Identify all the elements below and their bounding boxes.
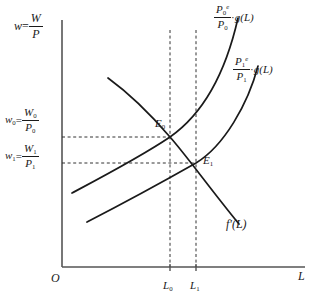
g0-numerator: P0e bbox=[214, 4, 231, 18]
g0-fraction: P0e P0 bbox=[214, 4, 231, 31]
w0-variable: w0 bbox=[5, 114, 16, 127]
w0-numerator: W0 bbox=[22, 107, 39, 121]
curve-label-supply-g0: P0e P0 ·g(L) bbox=[214, 4, 254, 31]
w1-numerator: W1 bbox=[22, 143, 39, 157]
g1-fraction: P1e P1 bbox=[233, 56, 250, 83]
g1-denominator: P1 bbox=[233, 70, 250, 83]
y-axis-label-equals: = bbox=[22, 20, 29, 32]
equilibrium-label-E1: E1 bbox=[203, 155, 213, 168]
w1-fraction: W1 P1 bbox=[22, 143, 39, 170]
curve-label-supply-g1: P1e P1 ·g(L) bbox=[233, 56, 273, 83]
g1-numerator: P1e bbox=[233, 56, 250, 70]
y-axis-label-denominator: P bbox=[29, 27, 43, 41]
equilibrium-label-E0: E0 bbox=[155, 118, 165, 131]
y-tick-label-w1: w1= W1 P1 bbox=[5, 143, 39, 170]
x-tick-label-L1: L1 bbox=[190, 280, 200, 293]
x-axis-label: L bbox=[298, 270, 305, 282]
curve-labor-supply-g1 bbox=[87, 66, 258, 222]
y-axis-label-numerator: W bbox=[29, 12, 43, 27]
origin-label: O bbox=[51, 272, 60, 284]
g0-denominator: P0 bbox=[214, 18, 231, 31]
curve-label-demand-f-prime: f'(L) bbox=[226, 218, 247, 230]
x-tick-label-L0: L0 bbox=[163, 280, 173, 293]
y-axis-label-w: w bbox=[14, 20, 22, 32]
g0-function: g(L) bbox=[235, 12, 254, 23]
y-axis-label-fraction: W P bbox=[29, 12, 43, 40]
w0-fraction: W0 P0 bbox=[22, 107, 39, 134]
w0-denominator: P0 bbox=[22, 121, 39, 134]
g1-function: g(L) bbox=[254, 64, 273, 75]
w1-denominator: P1 bbox=[22, 157, 39, 170]
w1-variable: w1 bbox=[5, 150, 16, 163]
y-axis-label: w= W P bbox=[14, 12, 43, 40]
y-tick-label-w0: w0= W0 P0 bbox=[5, 107, 39, 134]
curve-labor-demand-f-prime bbox=[108, 78, 239, 224]
labor-market-diagram: w= W P w0= W0 P0 w1= W1 P1 P0e P0 ·g(L) … bbox=[0, 0, 318, 305]
diagram-canvas bbox=[0, 0, 318, 305]
